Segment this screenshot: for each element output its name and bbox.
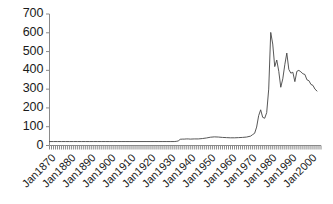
y-tick-label: 100 xyxy=(23,120,44,132)
y-tick-label: 200 xyxy=(23,101,44,113)
data-series-line xyxy=(50,32,317,141)
y-tick-label: 700 xyxy=(23,7,44,19)
y-tick-label: 300 xyxy=(23,82,44,94)
line-chart: 7006005004003002001000 Jan1870Jan1880Jan… xyxy=(0,0,333,204)
y-tick-label: 0 xyxy=(37,139,44,151)
x-tick-marks xyxy=(50,146,322,150)
y-tick-label: 600 xyxy=(23,26,44,38)
y-tick-label: 400 xyxy=(23,63,44,75)
y-tick-label: 500 xyxy=(23,45,44,57)
y-tick-marks xyxy=(46,14,50,146)
